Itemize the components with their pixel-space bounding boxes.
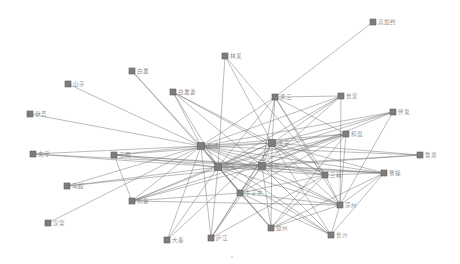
- node-label: 曹操: [389, 169, 401, 177]
- node-label: 林某: [230, 52, 242, 60]
- graph-node[interactable]: 王子: [269, 140, 290, 147]
- node-square-icon[interactable]: [170, 89, 176, 95]
- graph-node[interactable]: 伊吾: [27, 110, 47, 118]
- node-label: 长安: [346, 92, 358, 100]
- graph-edge: [340, 134, 346, 205]
- network-graph: 高加约林某白发山子白发妻伊吾黄三长安伴鬼荀彧桓温王子鲁肃太守三国胡长张任三辅曹操…: [0, 0, 460, 264]
- graph-edge: [211, 193, 240, 238]
- graph-node[interactable]: 三国: [111, 152, 131, 159]
- graph-edge: [271, 173, 384, 228]
- graph-node[interactable]: 太守: [30, 150, 50, 158]
- node-label: 庐江: [216, 234, 228, 242]
- graph-node[interactable]: 汉室: [45, 219, 65, 227]
- node-label: 荀彧: [207, 142, 219, 150]
- node-square-icon[interactable]: [64, 183, 70, 189]
- node-layer: 高加约林某白发山子白发妻伊吾黄三长安伴鬼荀彧桓温王子鲁肃太守三国胡长张任三辅曹操…: [27, 18, 437, 244]
- graph-node[interactable]: 鲁肃: [417, 151, 437, 159]
- node-label: 刘备: [137, 197, 149, 205]
- node-label: 太守: [38, 150, 50, 158]
- node-label: 桓温: [351, 130, 363, 138]
- node-label: 鲁肃: [425, 151, 437, 159]
- graph-edge: [240, 134, 346, 193]
- graph-edge: [275, 22, 373, 97]
- node-square-icon[interactable]: [237, 190, 243, 196]
- graph-edge: [211, 166, 262, 238]
- graph-node[interactable]: 白发妻: [170, 88, 196, 96]
- graph-edge: [262, 166, 331, 235]
- node-label: 大秦: [172, 236, 184, 244]
- graph-node[interactable]: 刘备: [129, 197, 149, 205]
- graph-node[interactable]: 伴鬼: [390, 108, 410, 116]
- node-square-icon[interactable]: [259, 163, 266, 170]
- node-square-icon[interactable]: [208, 235, 214, 241]
- node-square-icon[interactable]: [328, 232, 334, 238]
- node-label: 伴鬼: [398, 108, 410, 116]
- graph-node[interactable]: 长沙: [328, 231, 348, 239]
- node-label: 黄三: [280, 93, 292, 101]
- graph-node[interactable]: 牛子中: [237, 189, 263, 197]
- graph-node[interactable]: 林某: [222, 52, 242, 60]
- node-square-icon[interactable]: [65, 81, 71, 87]
- graph-node[interactable]: 桓温: [343, 130, 363, 138]
- node-square-icon[interactable]: [381, 170, 387, 176]
- graph-edge: [240, 193, 271, 228]
- graph-edge: [201, 112, 393, 146]
- graph-node[interactable]: 荀彧: [198, 142, 219, 150]
- graph-node[interactable]: 白发: [129, 67, 149, 75]
- node-square-icon[interactable]: [27, 111, 33, 117]
- graph-node[interactable]: 益州: [268, 224, 288, 231]
- node-square-icon[interactable]: [322, 172, 328, 178]
- node-label: 凉州: [345, 201, 357, 208]
- node-square-icon[interactable]: [269, 140, 276, 147]
- node-label: 三国: [119, 152, 131, 159]
- node-square-icon[interactable]: [129, 198, 135, 204]
- graph-edge: [331, 205, 340, 235]
- graph-edge: [67, 167, 218, 186]
- node-label: 山子: [73, 80, 85, 88]
- graph-edge: [201, 146, 211, 238]
- node-square-icon[interactable]: [338, 93, 344, 99]
- graph-node[interactable]: 马超: [64, 182, 84, 190]
- graph-node[interactable]: 凉州: [337, 201, 357, 208]
- graph-node[interactable]: 长安: [338, 92, 358, 100]
- node-square-icon[interactable]: [272, 94, 278, 100]
- node-label: 三辅: [330, 171, 342, 179]
- node-square-icon[interactable]: [370, 19, 376, 25]
- graph-edge: [132, 201, 340, 205]
- node-label: 高加约: [378, 18, 396, 26]
- node-square-icon[interactable]: [343, 131, 349, 137]
- node-square-icon[interactable]: [417, 152, 423, 158]
- node-label: 长沙: [336, 231, 348, 239]
- graph-edge: [173, 92, 218, 167]
- node-square-icon[interactable]: [268, 225, 274, 231]
- node-label: 益州: [276, 224, 288, 231]
- graph-node[interactable]: 胡长: [215, 163, 236, 171]
- graph-node[interactable]: 张任: [259, 162, 280, 170]
- graph-node[interactable]: 庐江: [208, 234, 228, 242]
- graph-edge: [340, 96, 341, 205]
- node-square-icon[interactable]: [111, 152, 117, 158]
- graph-node[interactable]: 山子: [65, 80, 85, 88]
- graph-edge: [167, 167, 218, 240]
- graph-node[interactable]: 高加约: [370, 18, 396, 26]
- node-square-icon[interactable]: [164, 237, 170, 243]
- node-square-icon[interactable]: [390, 109, 396, 115]
- node-square-icon[interactable]: [222, 53, 228, 59]
- node-label: 马超: [72, 182, 84, 190]
- node-square-icon[interactable]: [215, 164, 222, 171]
- node-label: 张任: [268, 162, 280, 170]
- graph-node[interactable]: 曹操: [381, 169, 401, 177]
- graph-edge: [201, 146, 340, 205]
- node-square-icon[interactable]: [45, 220, 51, 226]
- graph-node[interactable]: 黄三: [272, 93, 292, 101]
- node-label: 王子: [278, 140, 290, 146]
- graph-node[interactable]: 三辅: [322, 171, 342, 179]
- node-square-icon[interactable]: [30, 151, 36, 157]
- graph-node[interactable]: 大秦: [164, 236, 184, 244]
- graph-edge: [30, 114, 201, 146]
- node-label: 牛子中: [245, 189, 263, 197]
- node-square-icon[interactable]: [337, 202, 343, 208]
- node-label: 汉室: [53, 219, 65, 227]
- node-square-icon[interactable]: [198, 143, 205, 150]
- node-square-icon[interactable]: [129, 68, 135, 74]
